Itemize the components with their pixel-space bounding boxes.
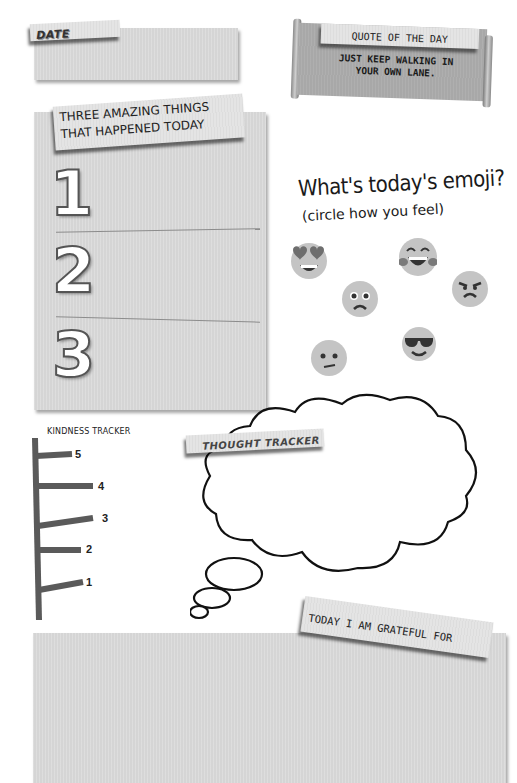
quote-scroll: QUOTE OF THE DAY JUST KEEP WALKING IN YO… xyxy=(291,19,494,106)
kindness-level-1[interactable]: 1 xyxy=(86,576,92,588)
worried-icon xyxy=(342,281,378,317)
date-label: DATE xyxy=(36,27,70,42)
quote-title: QUOTE OF THE DAY xyxy=(352,31,449,45)
emoji-subtitle: (circle how you feel) xyxy=(302,201,445,224)
heart-eyes-icon xyxy=(291,243,327,279)
emoji-heart-eyes[interactable] xyxy=(291,243,327,279)
scroll-right-roll xyxy=(482,35,493,107)
number-3: 3 xyxy=(52,324,95,386)
number-2: 2 xyxy=(52,240,95,302)
kindness-tracker-title: KINDNESS TRACKER xyxy=(47,427,131,436)
kindness-level-5[interactable]: 5 xyxy=(75,448,81,460)
kindness-level-2[interactable]: 2 xyxy=(86,543,92,555)
kindness-ladder-icon xyxy=(30,436,140,622)
amazing-thing-1-field[interactable] xyxy=(92,160,260,222)
sunglasses-icon xyxy=(402,327,436,361)
emoji-confused[interactable] xyxy=(311,340,347,376)
confused-icon xyxy=(311,340,347,376)
kindness-level-4[interactable]: 4 xyxy=(98,480,104,492)
emoji-angry[interactable] xyxy=(452,271,488,307)
amazing-thing-2-field[interactable] xyxy=(92,236,260,316)
grateful-field[interactable] xyxy=(33,633,506,783)
emoji-worried[interactable] xyxy=(342,281,378,317)
emoji-laughing[interactable] xyxy=(399,238,437,276)
kindness-tracker: 5 4 3 2 1 xyxy=(30,436,140,622)
number-1: 1 xyxy=(50,163,93,225)
emoji-cool[interactable] xyxy=(402,327,436,361)
kindness-level-3[interactable]: 3 xyxy=(102,512,108,524)
emoji-title: What's today's emoji? xyxy=(297,165,505,201)
laughing-icon xyxy=(399,238,437,276)
angry-icon xyxy=(452,271,488,307)
